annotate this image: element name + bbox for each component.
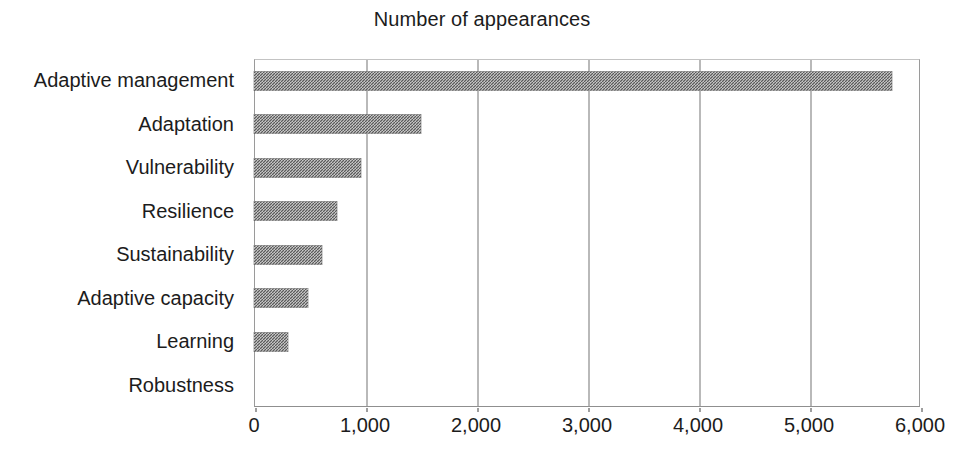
y-axis-label-adaptive-management: Adaptive management <box>0 59 240 103</box>
bar-row <box>254 320 920 364</box>
y-axis-label-resilience: Resilience <box>0 190 240 234</box>
bar <box>254 202 337 221</box>
x-tick-mark <box>255 408 257 412</box>
y-axis-label-learning: Learning <box>0 320 240 364</box>
bar <box>254 289 308 308</box>
x-axis-tick-label: 3,000 <box>562 414 612 437</box>
bar-row <box>254 364 920 408</box>
y-axis-label-robustness: Robustness <box>0 364 240 408</box>
x-axis-tick-labels: 01,0002,0003,0004,0005,0006,000 <box>0 414 964 446</box>
x-axis-tick-label: 6,000 <box>895 414 945 437</box>
bar-row <box>254 146 920 190</box>
bar-row <box>254 190 920 234</box>
bars-layer <box>254 59 920 407</box>
x-axis-tick-label: 2,000 <box>451 414 501 437</box>
bar <box>254 158 361 177</box>
bar-chart-figure: Number of appearances Adaptive managemen… <box>0 0 964 451</box>
bar <box>254 71 892 90</box>
x-tick-mark <box>810 408 812 412</box>
bar-row <box>254 103 920 147</box>
y-axis-label-adaptive-capacity: Adaptive capacity <box>0 277 240 321</box>
x-axis-tick-label: 4,000 <box>673 414 723 437</box>
x-tick-mark <box>366 408 368 412</box>
x-axis-tick-label: 1,000 <box>340 414 390 437</box>
y-axis-label-sustainability: Sustainability <box>0 233 240 277</box>
bar-row <box>254 233 920 277</box>
x-tick-mark <box>588 408 590 412</box>
bar-row <box>254 59 920 103</box>
x-tick-mark <box>477 408 479 412</box>
x-tick-mark <box>699 408 701 412</box>
bar <box>254 115 421 134</box>
x-tick-mark <box>921 408 923 412</box>
y-axis-label-vulnerability: Vulnerability <box>0 146 240 190</box>
x-axis-tick-label: 0 <box>248 414 259 437</box>
x-axis-tick-label: 5,000 <box>784 414 834 437</box>
bar <box>254 332 288 351</box>
chart-title: Number of appearances <box>0 8 964 31</box>
y-axis-label-adaptation: Adaptation <box>0 103 240 147</box>
bar-row <box>254 277 920 321</box>
bar <box>254 245 322 264</box>
y-axis-category-labels: Adaptive managementAdaptationVulnerabili… <box>0 59 240 407</box>
